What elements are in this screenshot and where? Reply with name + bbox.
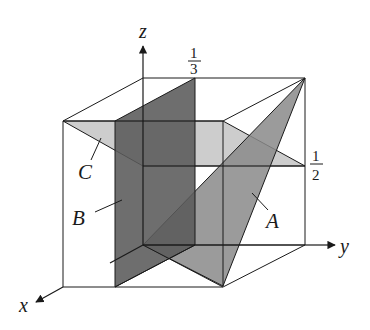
- fraction-one-half: 1 2: [310, 148, 323, 183]
- fraction-one-third: 1 3: [188, 45, 201, 77]
- z-label: z: [138, 20, 147, 42]
- y-label: y: [338, 235, 349, 258]
- cube-diagram: z y x C B A 1 3 1 2: [0, 0, 370, 330]
- leader-c: [91, 138, 101, 160]
- x-axis: [36, 287, 63, 302]
- svg-text:3: 3: [190, 61, 198, 77]
- svg-text:1: 1: [312, 148, 320, 164]
- svg-text:1: 1: [190, 45, 198, 61]
- x-label: x: [18, 294, 28, 316]
- plane-c-label: C: [78, 160, 93, 184]
- plane-b-label: B: [72, 206, 85, 230]
- svg-text:2: 2: [312, 167, 320, 183]
- plane-a-label: A: [264, 209, 279, 233]
